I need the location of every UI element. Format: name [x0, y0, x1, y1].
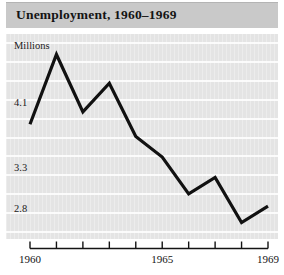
- chart-title-bar: Unemployment, 1960–1969: [6, 2, 278, 28]
- x-axis-tick-label: 1969: [257, 253, 279, 265]
- x-axis-line-and-ticks: [6, 239, 278, 255]
- chart-page: Unemployment, 1960–1969 Millions 4.1 3.3…: [0, 0, 284, 275]
- page-bottom-margin: [0, 268, 284, 275]
- plot-area: Millions 4.1 3.3 2.8: [6, 34, 278, 239]
- page-title: Unemployment, 1960–1969: [16, 7, 177, 23]
- unemployment-line-series: [6, 34, 278, 239]
- x-axis-tick-label: 1960: [19, 253, 41, 265]
- x-axis-tick-label: 1965: [151, 253, 173, 265]
